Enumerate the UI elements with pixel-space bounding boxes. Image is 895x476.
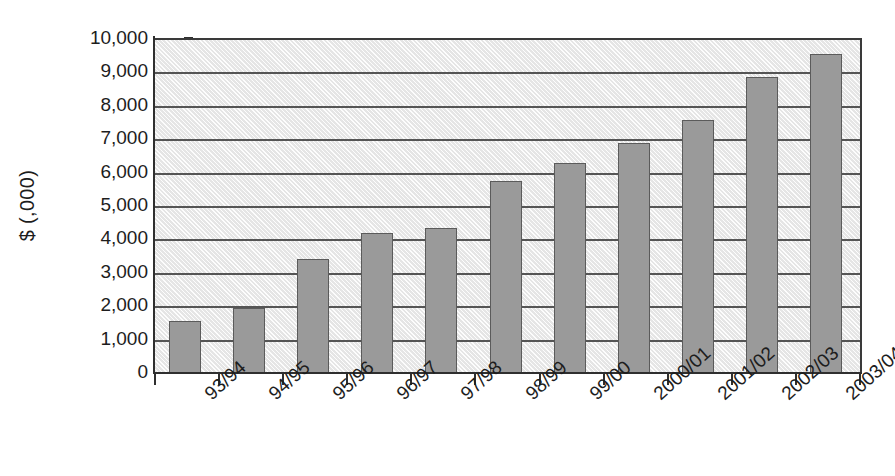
y-axis-tick-label: 3,000: [44, 262, 148, 281]
y-axis-tick-label: 2,000: [44, 295, 148, 314]
y-axis-tick-label: 10,000: [44, 28, 148, 47]
bar-chart-figure: $ (,000) 01,0002,0003,0004,0005,0006,000…: [0, 0, 895, 476]
y-axis-tick-label: 5,000: [44, 195, 148, 214]
y-axis-title: $ (,000): [0, 0, 56, 410]
gridline: [155, 72, 860, 74]
x-axis-tick-label: 95/96: [329, 389, 342, 404]
x-axis-tick-label: 99/00: [586, 389, 599, 404]
bar: [490, 181, 522, 374]
x-axis-tick-label: 2002/03: [778, 389, 791, 404]
x-axis-tick-label: 2001/02: [714, 389, 727, 404]
y-axis-tick-label: 6,000: [44, 162, 148, 181]
bar: [425, 228, 457, 374]
x-axis-tick-label: 2000/01: [650, 389, 663, 404]
bar: [297, 259, 329, 374]
bar: [169, 321, 201, 374]
x-axis-tick-label: 94/95: [265, 389, 278, 404]
y-axis-tick-labels: 01,0002,0003,0004,0005,0006,0007,0008,00…: [38, 0, 148, 476]
plot-area: [155, 38, 862, 374]
x-axis-tick-label: 98/99: [522, 389, 535, 404]
y-axis-tick-label: 0: [44, 362, 148, 381]
bar: [746, 77, 778, 374]
y-axis-line: [153, 36, 155, 374]
bar: [682, 120, 714, 374]
y-axis-tick-label: 8,000: [44, 95, 148, 114]
y-axis-title-text: $ (,000): [17, 169, 40, 240]
y-axis-tick-label: 9,000: [44, 61, 148, 80]
bar: [810, 54, 842, 374]
bar: [618, 143, 650, 374]
y-axis-tick-label: 4,000: [44, 228, 148, 247]
x-axis-tick-label: 96/97: [393, 389, 406, 404]
x-axis-tick-mark: [154, 374, 156, 385]
y-axis-tick-label: 7,000: [44, 128, 148, 147]
x-axis-tick-label: 93/94: [201, 389, 214, 404]
y-axis-tick-label: 1,000: [44, 329, 148, 348]
bar: [554, 163, 586, 374]
x-axis-tick-label: 2003/04: [842, 389, 855, 404]
x-axis-tick-label: 97/98: [457, 389, 470, 404]
bar: [361, 233, 393, 374]
